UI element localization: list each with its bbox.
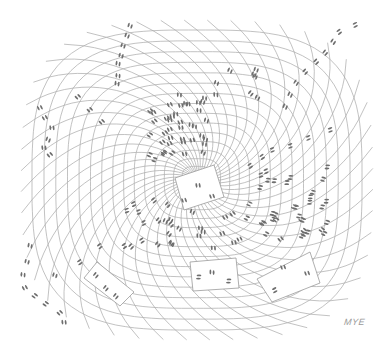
footprint-icon [254, 94, 261, 101]
footprint-icon [163, 115, 170, 122]
footprint-icon [243, 215, 250, 222]
footprint-icon [247, 162, 254, 169]
footprint-icon [257, 185, 263, 191]
footprint-icon [127, 243, 134, 250]
footprint-icon [45, 136, 52, 143]
footprint-icon [49, 125, 55, 131]
grid-spoke [135, 182, 189, 340]
footprint-icon [330, 38, 337, 45]
footprint-icon [46, 151, 53, 158]
footprint-icon [325, 164, 331, 169]
top-left-trail [114, 22, 133, 86]
bottom-center-tile [190, 258, 239, 291]
footprint-icon [253, 66, 259, 73]
footprint-icon [352, 22, 359, 29]
grid-spoke [181, 186, 307, 327]
cartoon-illustration [0, 0, 384, 347]
footprint-icon [259, 153, 266, 160]
grid-spoke [205, 20, 259, 178]
grid-spoke [199, 187, 373, 236]
footprint-icon [319, 204, 325, 210]
footprint-icon [272, 178, 278, 183]
footprint-icon [146, 131, 153, 138]
top-right-trail [282, 22, 359, 111]
footprint-icon [169, 149, 176, 156]
footprint-icon [320, 176, 326, 182]
footprint-icon [263, 231, 270, 238]
footprint-icon [61, 319, 67, 325]
footprint-icon [127, 22, 133, 29]
grid-spoke [205, 22, 285, 181]
footprint-icon [213, 80, 219, 87]
grid-spoke [184, 20, 247, 177]
footprint-icon [161, 129, 168, 136]
footprint-icon [247, 90, 254, 97]
footprint-icon [115, 61, 121, 67]
footprint-icon [24, 258, 30, 264]
footprint-icon [201, 229, 206, 234]
footprint-icon [42, 300, 49, 307]
footprint-icon [198, 225, 203, 231]
upper-right-cluster [213, 66, 261, 101]
footprint-icon [151, 118, 158, 125]
footprint-icon [308, 194, 313, 199]
footprint-icon [269, 147, 276, 154]
footprint-icon [20, 272, 25, 278]
footprint-icon [277, 235, 284, 242]
footprint-icon [336, 28, 343, 35]
footprint-icon [196, 108, 201, 114]
footprint-icon [202, 96, 207, 102]
footprint-icon [327, 127, 334, 134]
footprint-icon [115, 73, 120, 79]
footprint-icon [178, 124, 184, 130]
footprint-icon [27, 243, 33, 249]
right-cluster [257, 164, 330, 243]
footprint-icon [31, 292, 38, 299]
footprint-icon [177, 119, 184, 126]
footprint-icon [263, 168, 270, 175]
artist-signature: MYE [343, 317, 365, 327]
footprint-icon [213, 92, 218, 98]
footprint-icon [322, 49, 329, 56]
footprint-icon [284, 180, 290, 185]
footprint-icon [41, 145, 47, 151]
center-tile [175, 165, 224, 210]
grid-spoke [123, 181, 189, 340]
grid-spoke [200, 168, 373, 225]
grid-spoke [204, 80, 360, 195]
footprint-icon [21, 284, 28, 291]
footprint-icon [305, 135, 312, 142]
footprint-icon [52, 272, 58, 279]
footprint-icon [56, 309, 63, 316]
grid-spoke [109, 180, 189, 339]
footprint-icon [177, 92, 182, 97]
footprint-icon [74, 93, 81, 100]
footprint-icon [211, 245, 216, 251]
grid-spoke [197, 187, 372, 259]
footprint-icon [96, 243, 103, 250]
footprint-icon [159, 139, 166, 146]
footprint-icon [189, 137, 196, 144]
